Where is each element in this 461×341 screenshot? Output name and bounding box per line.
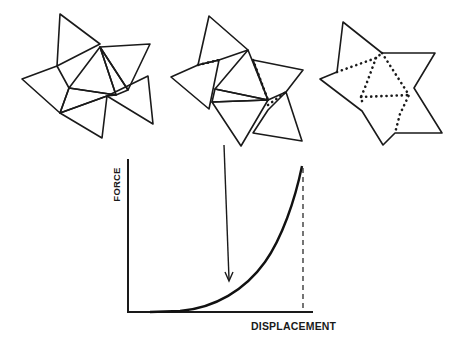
pointer-arrow-shaft — [224, 145, 229, 279]
folding-stage-3-folded-star — [320, 22, 442, 145]
panel-edge — [60, 96, 107, 138]
panel-edge — [320, 22, 442, 145]
fold-line-dotted — [253, 60, 268, 100]
diagram-canvas — [0, 0, 461, 341]
folding-stage-1-unfolded-triangles — [22, 14, 153, 138]
panel-edge — [57, 14, 100, 66]
panel-edge — [215, 50, 268, 100]
folding-stage-2-partially-folded — [171, 16, 303, 146]
panel-edge — [60, 88, 116, 113]
fold-line-dotted — [382, 53, 409, 133]
panel-edge — [69, 47, 116, 95]
chart-axes — [128, 159, 313, 312]
y-axis-label: FORCE — [111, 162, 122, 208]
force-displacement-chart — [128, 145, 313, 312]
x-axis-label: DISPLACEMENT — [251, 320, 336, 332]
fold-line-dotted — [361, 58, 376, 105]
panel-edge — [107, 76, 153, 124]
fold-line-dotted — [361, 95, 410, 97]
